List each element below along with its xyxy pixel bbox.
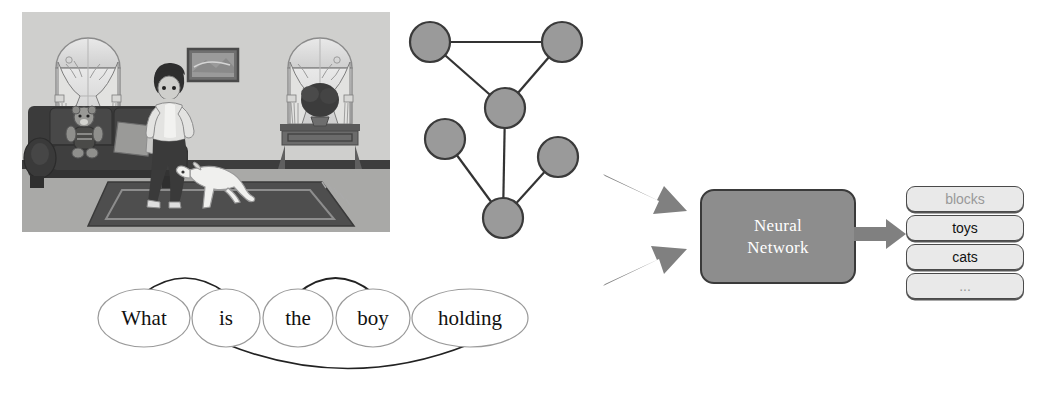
neural-network-label: Neural Network — [747, 215, 809, 259]
figure-canvas: Whatistheboyholding Neural Network block… — [0, 0, 1049, 395]
answer-label: ... — [959, 278, 971, 294]
network-to-answers-arrow — [852, 216, 914, 252]
answer-item[interactable]: blocks — [906, 186, 1024, 212]
graph-node[interactable] — [425, 119, 465, 159]
question-graph: Whatistheboyholding — [80, 268, 550, 388]
word-label: holding — [438, 306, 503, 330]
input-arrows — [595, 160, 715, 300]
question-to-network-arrow — [603, 246, 687, 286]
graph-node[interactable] — [538, 137, 578, 177]
graph-node[interactable] — [485, 88, 525, 128]
graph-node[interactable] — [542, 22, 582, 62]
scene-graph — [400, 8, 590, 248]
word-label: the — [285, 306, 311, 330]
image-to-network-arrow — [603, 174, 687, 214]
answer-item[interactable]: toys — [906, 215, 1024, 241]
neural-network-box[interactable]: Neural Network — [700, 189, 856, 284]
answer-item[interactable]: cats — [906, 244, 1024, 270]
word-label: boy — [357, 306, 389, 330]
word-label: is — [219, 306, 233, 330]
graph-node[interactable] — [483, 198, 523, 238]
answer-item[interactable]: ... — [906, 273, 1024, 299]
answer-label: toys — [952, 220, 978, 236]
answer-label: blocks — [945, 191, 985, 207]
answer-label: cats — [952, 249, 978, 265]
scene-image — [22, 12, 390, 232]
word-label: What — [121, 306, 167, 330]
picture-frame — [188, 49, 238, 81]
dependency-arc — [226, 344, 470, 369]
graph-node[interactable] — [410, 22, 450, 62]
answer-list: blockstoyscats... — [906, 186, 1024, 302]
